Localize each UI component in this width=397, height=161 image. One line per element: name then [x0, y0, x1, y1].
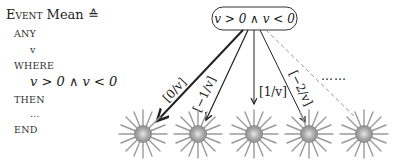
edge-label-0: [0/v] — [160, 75, 189, 105]
edge-1 — [206, 30, 248, 120]
starburst-icon — [340, 110, 388, 158]
starburst-icon — [230, 110, 278, 158]
edge-label-2: [1/v] — [259, 85, 287, 99]
starburst-icon — [174, 110, 222, 158]
starburst-icon — [119, 110, 167, 158]
ellipsis: …… — [321, 69, 347, 83]
derivation-tree: v > 0 ∧ v < 0 [0/v] [−1/v] [1/v] [−2/v] … — [0, 0, 397, 161]
root-node-label: v > 0 ∧ v < 0 — [214, 12, 295, 26]
starburst-icon — [285, 110, 333, 158]
